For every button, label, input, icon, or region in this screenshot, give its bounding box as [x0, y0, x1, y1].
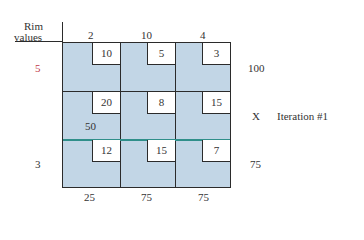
header-horizontal-rule	[15, 41, 63, 42]
cost-cell-r3c3: 7	[202, 140, 230, 162]
supply-row-2: X	[252, 110, 260, 122]
row-rim-value-1: 5	[35, 62, 41, 74]
cost-cell-r1c3: 3	[202, 43, 230, 65]
grid-divider-v2	[175, 43, 176, 187]
cost-cell-r1c1: 10	[92, 43, 120, 65]
cost-cell-r3c1: 12	[92, 140, 120, 162]
supply-row-3: 75	[250, 158, 261, 170]
cost-cell-r2c1: 20	[92, 92, 120, 114]
col-rim-value-2: 10	[141, 29, 152, 41]
col-rim-value-1: 2	[88, 29, 94, 41]
cost-cell-r1c2: 5	[147, 43, 175, 65]
cost-cell-r2c3: 15	[202, 92, 230, 114]
col-rim-value-3: 4	[200, 29, 206, 41]
header-vertical-rule	[62, 22, 63, 43]
demand-col-2: 75	[141, 191, 152, 203]
iteration-label: Iteration #1	[277, 110, 328, 122]
allocation-r2c1: 50	[85, 120, 96, 132]
row-rim-value-3: 3	[35, 158, 41, 170]
demand-col-3: 75	[198, 191, 209, 203]
transportation-grid: 10 5 3 20 8 15 50 12 15 7	[62, 42, 231, 188]
cost-cell-r3c2: 15	[147, 140, 175, 162]
supply-row-1: 100	[248, 62, 265, 74]
cost-cell-r2c2: 8	[147, 92, 175, 114]
demand-col-1: 25	[84, 191, 95, 203]
grid-divider-v1	[120, 43, 121, 187]
